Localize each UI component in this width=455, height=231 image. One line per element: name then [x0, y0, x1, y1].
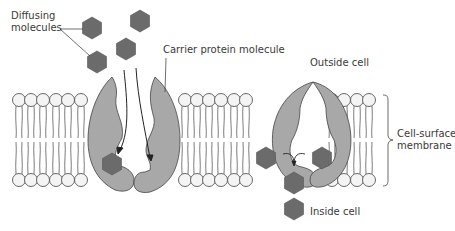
carrier-protein-open: [88, 77, 180, 193]
label-inside-cell: Inside cell: [310, 206, 360, 217]
label-membrane-2: membrane: [397, 140, 452, 151]
lipid-bilayer-middle: [179, 94, 253, 187]
carrier-protein-diagram: Diffusing molecules Carrier protein mole…: [0, 0, 455, 231]
label-carrier-protein: Carrier protein molecule: [163, 44, 285, 55]
label-diffusing-2: molecules: [11, 22, 62, 33]
bound-molecule-a: [257, 147, 276, 169]
label-membrane-1: Cell-surface: [397, 128, 455, 139]
lipid-bilayer-left: [13, 94, 88, 187]
label-diffusing-1: Diffusing: [11, 10, 55, 21]
released-molecule-2: [285, 198, 304, 220]
carrier-leader-line: [165, 58, 166, 92]
diffusion-arrows: [117, 68, 153, 161]
label-outside-cell: Outside cell: [310, 57, 369, 68]
diffusing-molecules: [83, 10, 150, 73]
membrane-bracket: [383, 95, 393, 186]
